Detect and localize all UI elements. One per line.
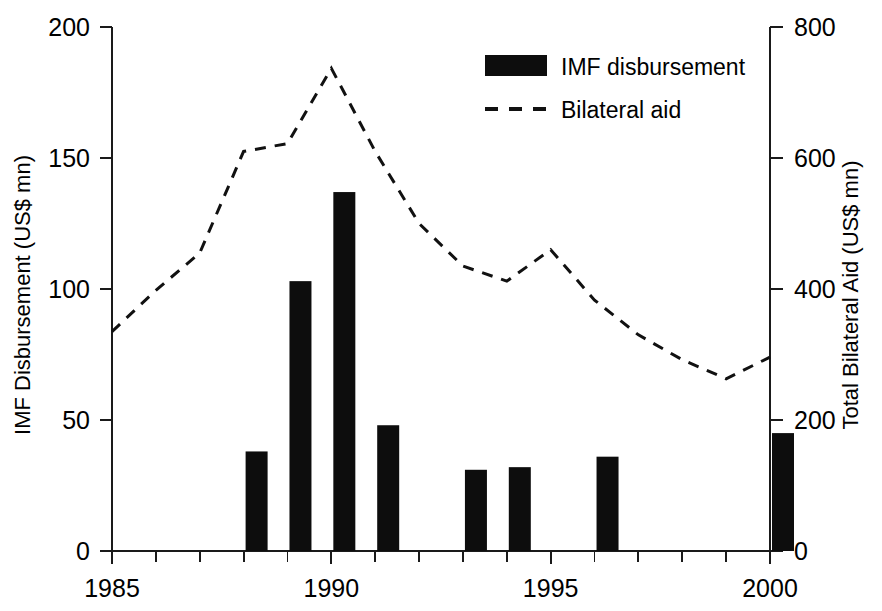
bar-1990 — [333, 192, 355, 551]
left-axis-tick-label: 100 — [48, 275, 90, 303]
chart-canvas: 0501001502000200400600800198519901995200… — [0, 0, 882, 611]
left-axis-tick-label: 0 — [76, 537, 90, 565]
x-axis-tick-label: 1985 — [84, 574, 140, 602]
bar-1993 — [465, 470, 487, 551]
bar-1988 — [246, 451, 268, 551]
x-axis-tick-label: 1995 — [523, 574, 579, 602]
right-axis-tick-label: 200 — [794, 406, 836, 434]
legend-label-bilateral-aid: Bilateral aid — [561, 97, 681, 123]
left-axis-title: IMF Disbursement (US$ mn) — [10, 155, 35, 435]
right-axis-tick-label: 0 — [794, 537, 808, 565]
bar-1989 — [289, 281, 311, 551]
bar-1996 — [597, 457, 619, 551]
left-axis-tick-label: 50 — [62, 406, 90, 434]
right-axis-title: Total Bilateral Aid (US$ mn) — [838, 161, 863, 430]
bar-1991 — [377, 425, 399, 551]
x-axis-tick-label: 1990 — [304, 574, 360, 602]
right-axis-tick-label: 400 — [794, 275, 836, 303]
bar-1994 — [509, 467, 531, 551]
x-axis-tick-label: 2000 — [742, 574, 798, 602]
chart-figure: 0501001502000200400600800198519901995200… — [0, 0, 882, 611]
legend-swatch-imf-disbursement — [485, 55, 547, 76]
legend-label-imf-disbursement: IMF disbursement — [561, 54, 746, 80]
tick-labels-group: 0501001502000200400600800198519901995200… — [48, 13, 835, 602]
chart-legend: IMF disbursementBilateral aid — [485, 54, 746, 123]
bar-2000 — [772, 433, 794, 551]
left-axis-tick-label: 150 — [48, 144, 90, 172]
right-axis-tick-label: 800 — [794, 13, 836, 41]
right-axis-tick-label: 600 — [794, 144, 836, 172]
left-axis-tick-label: 200 — [48, 13, 90, 41]
